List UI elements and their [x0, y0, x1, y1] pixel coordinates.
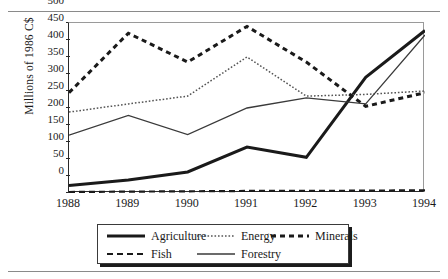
y-tick-label: 100 [22, 131, 64, 141]
y-tick-label: 400 [22, 29, 64, 39]
y-tick-label: 150 [22, 114, 64, 124]
legend-label: Fish [151, 248, 172, 260]
series-line-minerals [69, 26, 425, 106]
legend-item-forestry: Forestry [196, 245, 281, 263]
legend-item-fish: Fish [106, 245, 172, 263]
figure-container: Millions of 1986 C$ 05010015020025030035… [0, 0, 448, 279]
y-tick-label: 250 [22, 80, 64, 90]
y-tick-label: 500 [22, 0, 64, 5]
y-tick-label: 0 [22, 165, 64, 175]
y-tick-label: 200 [22, 97, 64, 107]
y-tick-label: 350 [22, 46, 64, 56]
y-tick-label: 300 [22, 63, 64, 73]
legend-swatch-agriculture-icon [106, 230, 146, 242]
series-line-energy [69, 57, 425, 112]
series-line-forestry [69, 35, 425, 135]
x-tick-label: 1991 [216, 196, 276, 211]
x-tick-label: 1990 [157, 196, 217, 211]
x-tick-label: 1988 [38, 196, 98, 211]
x-tick-label: 1994 [394, 196, 448, 211]
top-rule [8, 11, 440, 12]
y-axis-tick-labels: 050100150200250300350400450500 [22, 0, 64, 170]
legend-swatch-fish-icon [106, 248, 146, 260]
legend-label: Minerals [315, 230, 358, 242]
x-tick-label: 1989 [97, 196, 157, 211]
legend-item-energy: Energy [196, 227, 275, 245]
x-tick-label: 1992 [275, 196, 335, 211]
y-tick-label: 50 [22, 148, 64, 158]
legend-swatch-minerals-icon [270, 230, 310, 242]
legend-item-agriculture: Agriculture [106, 227, 206, 245]
x-tick-label: 1993 [335, 196, 395, 211]
plot-area [68, 22, 424, 192]
series-lines [69, 23, 425, 193]
bottom-rule [8, 271, 440, 272]
y-tick-label: 450 [22, 12, 64, 22]
legend: AgricultureEnergyMineralsFishForestry [97, 224, 349, 264]
series-line-fish [69, 190, 425, 192]
x-axis-tick-labels: 1988198919901991199219931994 [68, 196, 424, 212]
legend-swatch-forestry-icon [196, 248, 236, 260]
legend-swatch-energy-icon [196, 230, 236, 242]
legend-item-minerals: Minerals [270, 227, 358, 245]
legend-label: Forestry [241, 248, 281, 260]
